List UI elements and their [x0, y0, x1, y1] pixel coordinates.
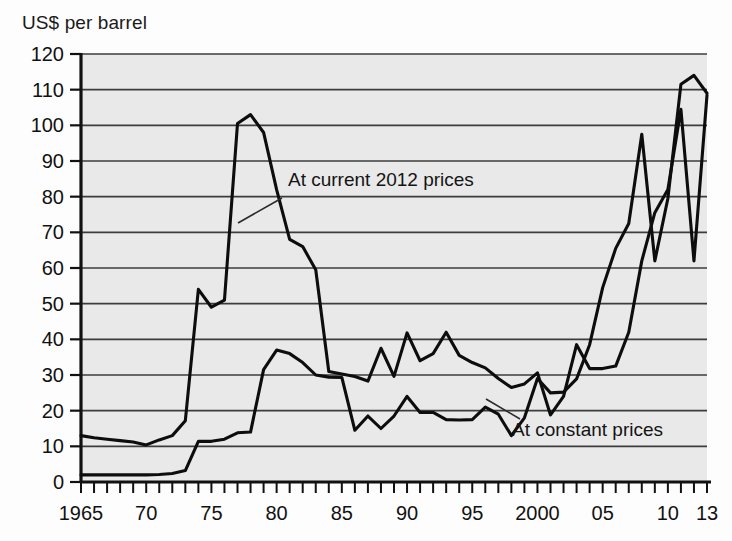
y-tick-label-80: 80 — [42, 186, 64, 208]
x-tick-label-2000: 2000 — [515, 502, 560, 524]
oil-price-line-chart: 0102030405060708090100110120196570758085… — [0, 0, 732, 541]
x-tick-label-1990: 90 — [396, 502, 418, 524]
y-tick-label-20: 20 — [42, 400, 64, 422]
x-tick-label-2013: 13 — [696, 502, 718, 524]
x-tick-label-2005: 05 — [592, 502, 614, 524]
x-tick-label-2010: 10 — [657, 502, 679, 524]
x-tick-label-1975: 75 — [200, 502, 222, 524]
x-tick-label-1985: 85 — [331, 502, 353, 524]
y-tick-label-100: 100 — [31, 114, 64, 136]
y-tick-label-90: 90 — [42, 150, 64, 172]
y-tick-label-40: 40 — [42, 328, 64, 350]
y-tick-label-70: 70 — [42, 221, 64, 243]
x-tick-label-1970: 70 — [135, 502, 157, 524]
y-tick-label-110: 110 — [32, 79, 64, 101]
y-tick-label-30: 30 — [42, 364, 64, 386]
y-tick-label-10: 10 — [42, 435, 64, 457]
y-tick-label-60: 60 — [42, 257, 64, 279]
y-tick-label-0: 0 — [53, 471, 64, 493]
y-tick-label-120: 120 — [31, 43, 64, 65]
chart-page: US$ per barrel 0102030405060708090100110… — [0, 0, 732, 541]
y-tick-label-50: 50 — [42, 293, 64, 315]
x-tick-label-1995: 95 — [461, 502, 483, 524]
x-tick-label-1965: 1965 — [59, 502, 104, 524]
annotation-label-constant-prices: At constant prices — [512, 419, 663, 440]
x-tick-label-1980: 80 — [266, 502, 288, 524]
annotation-label-current-prices: At current 2012 prices — [288, 169, 474, 190]
